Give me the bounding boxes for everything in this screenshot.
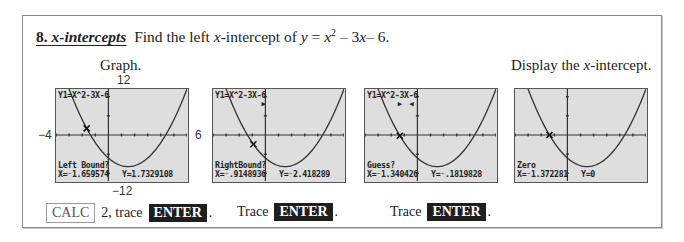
calculator-screen-zero: ZeroX=⁻1.372281Y=0 <box>514 88 648 183</box>
x-tick <box>82 134 83 137</box>
period: . <box>209 205 213 221</box>
x-tick <box>68 134 69 137</box>
x-tick <box>443 134 444 137</box>
calc-key: CALC <box>46 203 95 223</box>
x-tick <box>515 134 516 137</box>
calculator-screen-right-bound: Y1=X^2-3X-6▶RightBound?X=⁻.9148936Y=⁻2.4… <box>212 88 346 183</box>
x-tick <box>580 134 581 137</box>
keystroke-step-1: CALC 2, trace ENTER . <box>46 203 212 223</box>
x-tick <box>173 134 174 137</box>
enter-key: ENTER <box>149 204 207 222</box>
x-tick <box>121 134 122 137</box>
x-tick <box>527 134 528 137</box>
x-tick <box>456 134 457 137</box>
x-tick <box>147 134 148 137</box>
x-tick <box>645 134 646 137</box>
y-tick <box>416 153 419 154</box>
example-heading: 8. x-intercepts Find the left x-intercep… <box>36 27 389 46</box>
keystroke-text: Trace <box>237 204 268 220</box>
x-readout: X=⁻1.659574 <box>58 170 109 179</box>
x-tick <box>225 134 226 137</box>
y-readout: Y=⁻2.418289 <box>279 170 330 179</box>
trace-cursor <box>84 125 90 131</box>
x-readout: X=⁻1.372281 <box>517 170 568 179</box>
x-tick <box>213 134 214 137</box>
parabola-curve <box>515 89 646 167</box>
x-tick <box>134 134 135 137</box>
y-tick <box>566 96 569 97</box>
x-tick <box>365 134 366 137</box>
graph-label: Graph. <box>100 57 141 74</box>
period: . <box>488 204 492 220</box>
x-tick <box>619 134 620 137</box>
x-tick <box>469 134 470 137</box>
x-tick <box>56 134 57 137</box>
x-tick <box>343 134 344 137</box>
y-readout: Y=1.7329108 <box>122 170 173 179</box>
y-tick <box>566 115 569 116</box>
function-expression: Y1=X^2-3X-6 <box>215 91 266 100</box>
x-tick <box>593 134 594 137</box>
keystroke-text: 2, trace <box>101 205 142 221</box>
bound-marker-icon: ▶ ◀ <box>398 100 414 109</box>
parabola-curve <box>365 89 496 167</box>
x-tick <box>404 134 405 137</box>
section-number-heading: 8. x-intercepts <box>36 28 126 45</box>
y-tick <box>107 153 110 154</box>
x-tick <box>482 134 483 137</box>
period: . <box>335 204 339 220</box>
y-readout: Y=⁻.1819828 <box>431 170 482 179</box>
x-tick <box>239 134 240 137</box>
x-readout: X=⁻.9148936 <box>215 170 266 179</box>
x-tick <box>541 134 542 137</box>
x-readout: X=⁻1.340426 <box>367 170 418 179</box>
trace-cursor <box>397 133 403 139</box>
x-tick <box>278 134 279 137</box>
x-tick <box>160 134 161 137</box>
y-tick <box>566 153 569 154</box>
xmin-label: −4 <box>38 128 52 142</box>
enter-key: ENTER <box>427 203 485 221</box>
x-tick <box>252 134 253 137</box>
bound-marker-icon: ▶ <box>261 100 265 109</box>
parabola-curve <box>56 89 187 167</box>
y-tick <box>264 153 267 154</box>
trace-cursor <box>250 141 256 147</box>
x-tick <box>632 134 633 137</box>
x-tick <box>606 134 607 137</box>
enter-key: ENTER <box>274 203 332 221</box>
x-tick <box>377 134 378 137</box>
y-tick <box>264 115 267 116</box>
x-tick <box>430 134 431 137</box>
xmax-label: 6 <box>195 128 202 142</box>
function-expression: Y1=X^2-3X-6 <box>58 91 109 100</box>
instruction-text: Find the left x-intercept of y = x2 – 3x… <box>134 28 389 45</box>
keystroke-text: Trace <box>390 204 421 220</box>
x-tick <box>186 134 187 137</box>
x-tick <box>317 134 318 137</box>
calculator-screen-guess: Y1=X^2-3X-6▶ ◀Guess?X=⁻1.340426Y=⁻.18198… <box>364 88 498 183</box>
keystroke-step-2: Trace ENTER . <box>237 203 338 221</box>
x-tick <box>554 134 555 137</box>
keystroke-step-3: Trace ENTER . <box>390 203 491 221</box>
parabola-curve <box>213 89 344 167</box>
x-tick <box>95 134 96 137</box>
x-tick <box>291 134 292 137</box>
x-tick <box>330 134 331 137</box>
ymin-label: −12 <box>112 184 132 198</box>
display-intercept-label: Display the x-intercept. <box>511 57 651 74</box>
x-tick <box>304 134 305 137</box>
function-expression: Y1=X^2-3X-6 <box>367 91 418 100</box>
ymax-label: 12 <box>117 73 130 87</box>
calculator-screen-left-bound: Y1=X^2-3X-6Left Bound?X=⁻1.659574Y=1.732… <box>55 88 189 183</box>
y-tick <box>107 115 110 116</box>
y-readout: Y=0 <box>581 170 595 179</box>
y-tick <box>416 115 419 116</box>
x-tick <box>495 134 496 137</box>
x-tick <box>391 134 392 137</box>
